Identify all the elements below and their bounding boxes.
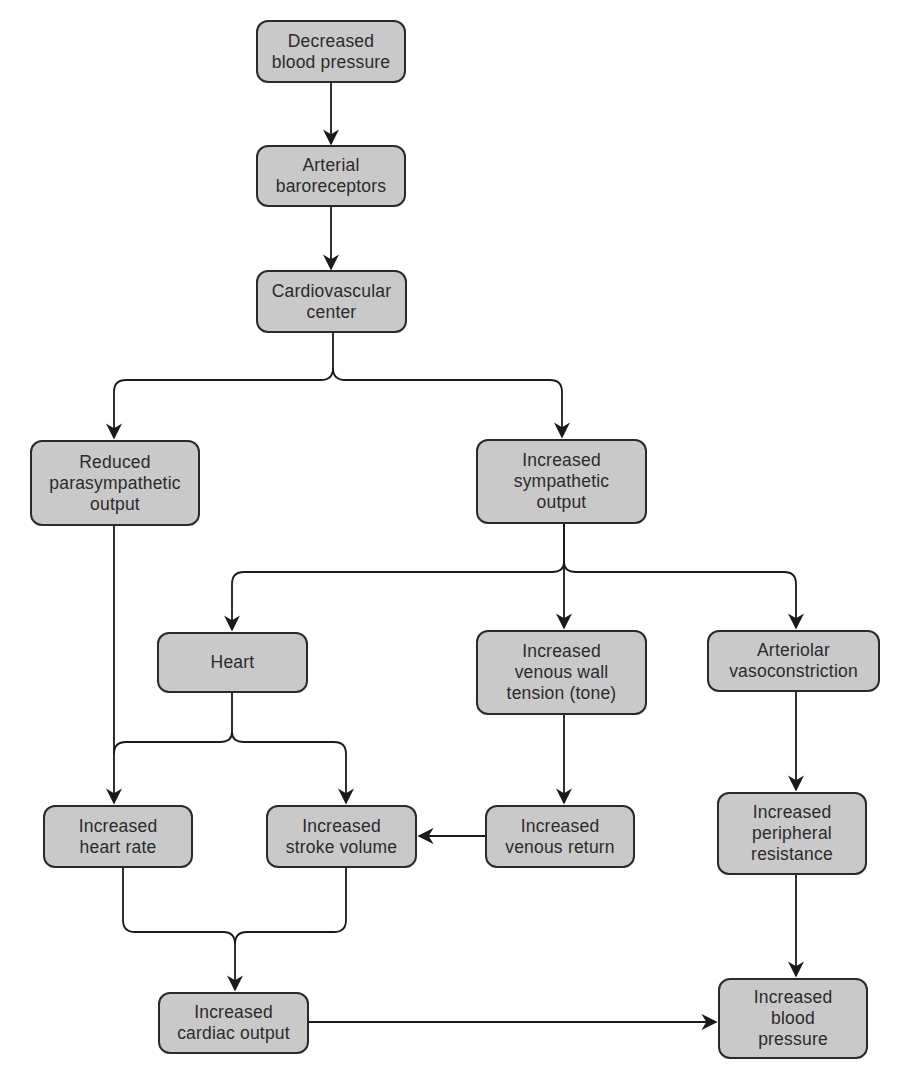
node-label: Decreased blood pressure xyxy=(272,31,391,73)
arrow-cv-center-to-sym xyxy=(333,368,562,437)
node-increased-blood-pressure: Increased blood pressure xyxy=(718,978,868,1059)
node-increased-sympathetic-output: Increased sympathetic output xyxy=(476,439,647,524)
node-heart: Heart xyxy=(157,632,308,693)
node-increased-venous-return: Increased venous return xyxy=(485,805,635,868)
node-arteriolar-vasoconstriction: Arteriolar vasoconstriction xyxy=(707,630,880,692)
node-reduced-parasympathetic-output: Reduced parasympathetic output xyxy=(30,440,200,526)
arrow-cv-center-to-parasym xyxy=(114,333,333,438)
node-label: Increased blood pressure xyxy=(754,987,833,1050)
line-stroke-volume-to-merge xyxy=(235,868,346,944)
node-label: Cardiovascular center xyxy=(272,281,392,323)
node-label: Arterial baroreceptors xyxy=(276,155,387,197)
node-label: Increased peripheral resistance xyxy=(751,802,833,865)
node-increased-heart-rate: Increased heart rate xyxy=(43,805,193,868)
node-increased-peripheral-resistance: Increased peripheral resistance xyxy=(717,792,867,875)
node-label: Increased stroke volume xyxy=(286,816,398,858)
node-increased-stroke-volume: Increased stroke volume xyxy=(266,805,417,868)
node-label: Increased heart rate xyxy=(79,816,158,858)
line-heart-to-heart-rate xyxy=(114,693,232,754)
line-heart-rate-to-merge xyxy=(123,868,235,944)
arrow-heart-to-stroke-volume xyxy=(232,732,346,803)
node-label: Increased sympathetic output xyxy=(514,450,610,513)
arrow-sym-to-heart xyxy=(232,524,564,630)
node-increased-cardiac-output: Increased cardiac output xyxy=(158,992,309,1054)
node-label: Heart xyxy=(211,652,255,673)
node-arterial-baroreceptors: Arterial baroreceptors xyxy=(256,145,406,207)
node-label: Arteriolar vasoconstriction xyxy=(729,640,858,682)
arrow-sym-to-arteriolar xyxy=(564,562,796,628)
node-label: Increased cardiac output xyxy=(177,1002,290,1044)
connector-lines xyxy=(0,0,907,1080)
node-cardiovascular-center: Cardiovascular center xyxy=(256,270,407,333)
node-decreased-blood-pressure: Decreased blood pressure xyxy=(256,20,406,83)
node-label: Increased venous return xyxy=(505,816,615,858)
node-increased-venous-wall-tension: Increased venous wall tension (tone) xyxy=(476,630,647,715)
node-label: Reduced parasympathetic output xyxy=(49,452,180,515)
node-label: Increased venous wall tension (tone) xyxy=(507,641,617,704)
